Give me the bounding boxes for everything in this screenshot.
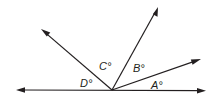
angle-diagram [0,0,216,100]
baseline [22,90,200,91]
angle-label-c: C° [99,61,111,72]
ray-right-low-arrowhead-icon [191,59,201,65]
baseline-right-arrowhead-icon [197,88,206,93]
angle-label-b: B° [133,63,145,74]
angle-label-d: D° [80,78,92,89]
baseline-left-arrowhead-icon [16,87,25,92]
angle-label-a: A° [151,80,163,91]
ray-upper-right [112,13,155,91]
